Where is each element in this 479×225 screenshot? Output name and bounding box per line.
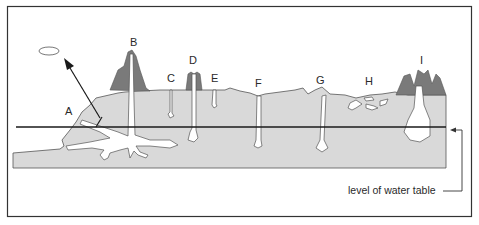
water-table-caption: level of water table <box>348 184 436 196</box>
cloud-shape <box>39 47 59 55</box>
label-b: B <box>130 36 137 48</box>
label-g: G <box>316 74 325 86</box>
karst-cross-section-diagram: A B C D E F G H I level of water table <box>0 0 479 225</box>
label-h: H <box>365 75 373 87</box>
label-d: D <box>189 54 197 66</box>
label-a: A <box>65 105 73 117</box>
label-i: I <box>420 54 423 66</box>
label-c: C <box>167 72 175 84</box>
label-e: E <box>211 72 218 84</box>
label-f: F <box>255 77 262 89</box>
